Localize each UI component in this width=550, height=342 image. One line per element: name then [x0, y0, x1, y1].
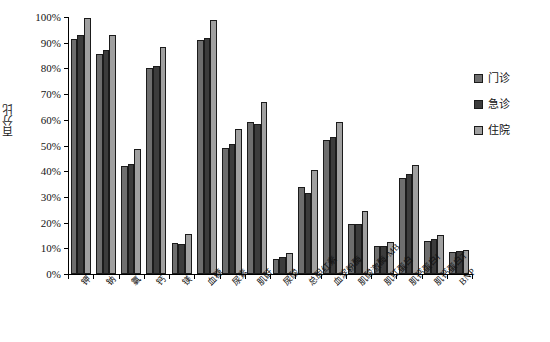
bar-group: [247, 17, 267, 274]
y-axis-tick: [64, 146, 68, 147]
legend-item[interactable]: 急诊: [474, 94, 548, 114]
bar: [204, 38, 211, 274]
bar: [210, 20, 217, 274]
y-axis-tick-label: 90%: [41, 37, 61, 49]
y-axis-tick: [64, 248, 68, 249]
x-axis-tick-label: 镁: [180, 273, 194, 287]
legend-swatch-outpatient: [474, 74, 483, 83]
bar: [254, 124, 261, 274]
x-axis-tick-label: 氯: [129, 273, 143, 287]
bar: [247, 122, 254, 274]
bar: [323, 140, 330, 274]
bar-group: [298, 17, 318, 274]
x-axis-labels: 钾钠氯钙镁血糖尿素肌酐尿酸总胆红素血淀粉酶肌酸激酶-MB肌红蛋白肌钙蛋白I肌钙蛋…: [68, 274, 472, 342]
y-axis-tick: [64, 171, 68, 172]
bar: [311, 170, 318, 274]
bar: [298, 187, 305, 274]
y-axis-tick-label: 60%: [41, 114, 61, 126]
y-axis-tick-label: 50%: [41, 140, 61, 152]
y-axis-tick-label: 100%: [35, 11, 61, 23]
y-axis-tick: [64, 17, 68, 18]
y-axis-tick: [64, 223, 68, 224]
bar-group: [71, 17, 91, 274]
y-axis-tick: [64, 43, 68, 44]
bar: [153, 66, 160, 274]
legend-item-label: 住院: [488, 124, 510, 136]
y-axis-tick-label: 40%: [41, 165, 61, 177]
bar-group: [273, 17, 293, 274]
bar: [305, 193, 312, 274]
bar-group: [348, 17, 368, 274]
bar: [77, 35, 84, 274]
bar: [412, 165, 419, 274]
legend-item-label: 急诊: [488, 98, 510, 110]
bar-group: [449, 17, 469, 274]
legend-item-label: 门诊: [488, 72, 510, 84]
y-axis-tick-label: 0%: [46, 268, 61, 280]
legend-item[interactable]: 住院: [474, 120, 548, 140]
bar: [84, 18, 91, 274]
bar-group: [121, 17, 141, 274]
y-axis-line: [68, 17, 69, 275]
bar-group: [96, 17, 116, 274]
plot-area: 0%10%20%30%40%50%60%70%80%90%100%: [68, 17, 472, 274]
bar: [109, 35, 116, 274]
y-axis-tick-label: 80%: [41, 62, 61, 74]
bar-group: [374, 17, 394, 274]
bar: [197, 40, 204, 274]
legend-item[interactable]: 门诊: [474, 68, 548, 88]
bar-group: [323, 17, 343, 274]
bar-group: [424, 17, 444, 274]
bar: [222, 148, 229, 274]
y-axis-tick-label: 30%: [41, 191, 61, 203]
y-axis-title: 百分比: [2, 104, 24, 137]
x-axis-tick-label: 钙: [154, 273, 168, 287]
bar-chart: 百分比 0%10%20%30%40%50%60%70%80%90%100% 钾钠…: [0, 0, 550, 342]
bar: [160, 47, 167, 274]
y-axis-tick: [64, 94, 68, 95]
y-axis-tick: [64, 197, 68, 198]
bar-group: [172, 17, 192, 274]
legend-swatch-inpatient: [474, 126, 483, 135]
bar: [128, 164, 135, 275]
bar: [71, 39, 78, 274]
bar: [336, 122, 343, 274]
x-axis-tick-label: 钠: [104, 273, 118, 287]
bar-group: [146, 17, 166, 274]
bar: [185, 234, 192, 274]
bar: [235, 129, 242, 274]
bar: [178, 244, 185, 274]
bar: [96, 54, 103, 274]
y-axis-tick: [64, 68, 68, 69]
bar: [121, 166, 128, 274]
bar: [279, 257, 286, 274]
y-axis-tick-label: 70%: [41, 88, 61, 100]
y-axis-tick-label: 10%: [41, 242, 61, 254]
chart-legend: 门诊急诊住院: [474, 68, 548, 146]
bar-group: [222, 17, 242, 274]
y-axis-tick-label: 20%: [41, 217, 61, 229]
bar: [229, 144, 236, 274]
x-axis-tick-label: 钾: [79, 273, 93, 287]
legend-swatch-emergency: [474, 100, 483, 109]
bar-group: [197, 17, 217, 274]
bar: [362, 211, 369, 274]
bar-group: [399, 17, 419, 274]
y-axis-tick: [64, 120, 68, 121]
bar: [134, 149, 141, 274]
bar: [261, 102, 268, 274]
bar: [146, 68, 153, 274]
bar: [172, 243, 179, 274]
bar: [103, 50, 110, 274]
